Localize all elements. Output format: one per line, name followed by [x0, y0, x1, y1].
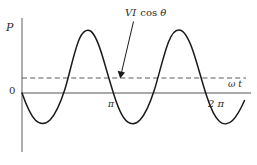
y-axis-label: P: [6, 22, 13, 33]
x-tick-label-pi: π: [108, 100, 114, 109]
callout-arrow-head: [118, 71, 125, 79]
plot-canvas: [0, 0, 257, 165]
callout-arrow-line: [122, 22, 134, 73]
annotation-angle-theta: θ: [160, 7, 166, 18]
x-tick-label-two-pi: 2 π: [208, 99, 224, 109]
annotation-function-cos: cos: [140, 7, 157, 18]
power-waveform-figure: P 0 π 2 π ω t VI cos θ: [0, 0, 257, 165]
average-power-annotation-label: VI cos θ: [125, 8, 166, 18]
origin-label: 0: [9, 86, 15, 96]
power-waveform-curve: [22, 30, 245, 124]
annotation-symbol-vi: VI: [125, 7, 136, 18]
x-axis-label: ω t: [228, 80, 242, 89]
